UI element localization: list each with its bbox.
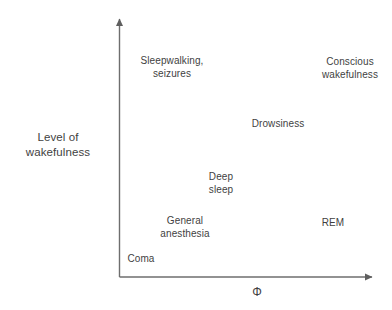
state-label-line-1: Deep — [209, 170, 233, 183]
state-label-sleepwalking-seizures: Sleepwalking, seizures — [140, 54, 203, 80]
state-label-line-1: REM — [322, 216, 345, 229]
state-label-line-2: seizures — [140, 67, 203, 80]
state-label-line-1: Drowsiness — [252, 117, 305, 130]
state-label-line-2: wakefulness — [322, 68, 378, 81]
state-label-deep-sleep: Deep sleep — [209, 170, 233, 196]
state-label-line-2: anesthesia — [160, 227, 209, 240]
consciousness-state-diagram: Level of wakefulness Φ Sleepwalking, sei… — [0, 0, 392, 310]
y-axis-title-line-2: wakefulness — [26, 145, 90, 160]
state-label-coma: Coma — [127, 252, 154, 265]
state-label-general-anesthesia: General anesthesia — [160, 214, 209, 240]
state-label-drowsiness: Drowsiness — [252, 117, 305, 130]
state-label-line-1: General — [160, 214, 209, 227]
state-label-line-1: Coma — [127, 252, 154, 265]
state-label-line-1: Conscious — [322, 55, 378, 68]
state-label-line-1: Sleepwalking, — [140, 54, 203, 67]
state-label-line-2: sleep — [209, 183, 233, 196]
state-label-rem: REM — [322, 216, 345, 229]
state-label-conscious-wakefulness: Conscious wakefulness — [322, 55, 378, 81]
x-axis-title: Φ — [252, 285, 262, 299]
y-axis-title-line-1: Level of — [26, 130, 90, 145]
y-axis-title: Level of wakefulness — [26, 130, 90, 160]
